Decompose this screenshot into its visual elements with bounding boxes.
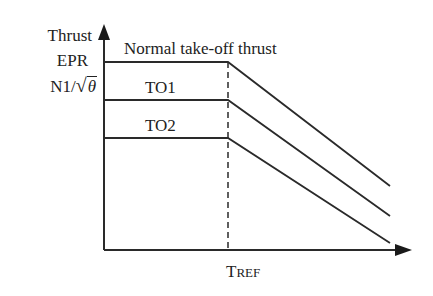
- label-normal-takeoff: Normal take-off thrust: [124, 40, 277, 57]
- y-label-thrust: Thrust: [48, 27, 92, 44]
- theta-symbol: θ: [87, 76, 97, 96]
- tref-main: T: [226, 262, 236, 281]
- n1-text: N1/: [50, 77, 76, 96]
- y-label-epr: EPR: [57, 52, 88, 69]
- sqrt-symbol: √: [76, 74, 87, 96]
- x-axis-arrow-icon: [395, 244, 412, 256]
- y-label-n1-sqrt-theta: N1/√θ: [50, 75, 97, 95]
- tref-sub: REF: [236, 265, 260, 280]
- label-to1: TO1: [145, 79, 176, 96]
- y-axis-arrow-icon: [98, 24, 110, 40]
- x-label-tref: TREF: [226, 263, 260, 280]
- label-to2: TO2: [145, 117, 176, 134]
